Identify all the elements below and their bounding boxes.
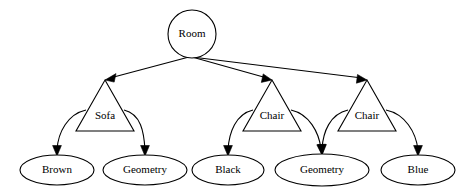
node-brown-label: Brown (42, 163, 72, 175)
edge-root-to-chair1-arrowhead (261, 74, 272, 83)
node-room[interactable]: Room (168, 10, 216, 58)
diagram-canvas: Room Sofa Chair Chair Brown Geometry (0, 0, 471, 189)
node-geometry-1[interactable]: Geometry (103, 155, 187, 185)
edge-sofa-to-brown-arrowhead (53, 146, 62, 157)
edge-root-to-sofa-arrowhead (105, 74, 116, 83)
node-chair-1[interactable]: Chair (243, 80, 301, 131)
edge-chair2-to-geometry2-arrowhead (318, 145, 327, 156)
node-sofa-triangle[interactable] (76, 80, 134, 131)
edge-sofa-to-brown (53, 110, 86, 156)
node-blue-label: Blue (408, 163, 429, 175)
node-black-label: Black (215, 163, 241, 175)
edge-root-to-sofa-line (110, 57, 189, 78)
edge-root-to-chair1 (192, 57, 272, 82)
node-chair-2[interactable]: Chair (338, 80, 396, 131)
node-sofa-label: Sofa (95, 109, 115, 121)
edge-root-to-chair2-line (192, 57, 362, 78)
node-room-label: Room (179, 27, 206, 39)
node-chair-1-label: Chair (260, 109, 285, 121)
edge-chair2-to-blue-arrowhead (414, 146, 423, 157)
node-sofa[interactable]: Sofa (76, 80, 134, 131)
edge-chair1-to-black (224, 110, 253, 156)
edge-root-to-chair1-line (192, 57, 267, 78)
edge-root-to-chair2 (192, 57, 367, 83)
node-blue[interactable]: Blue (381, 155, 455, 185)
node-chair-2-triangle[interactable] (338, 80, 396, 131)
edge-sofa-to-geometry1 (124, 110, 149, 156)
node-geometry-2-label: Geometry (300, 163, 344, 175)
edge-group-root (105, 57, 367, 83)
edge-chair2-to-geometry2 (318, 110, 348, 155)
edge-sofa-to-geometry1-arrowhead (141, 146, 150, 157)
node-brown[interactable]: Brown (20, 155, 94, 185)
scene-graph-diagram: Room Sofa Chair Chair Brown Geometry (0, 0, 471, 189)
node-chair-2-label: Chair (355, 109, 380, 121)
node-geometry-2[interactable]: Geometry (275, 154, 369, 186)
node-black[interactable]: Black (192, 155, 264, 185)
edge-chair2-to-blue (386, 110, 422, 156)
node-chair-1-triangle[interactable] (243, 80, 301, 131)
edge-root-to-sofa (105, 57, 189, 82)
edge-chair1-to-black-arrowhead (224, 146, 233, 157)
node-geometry-1-label: Geometry (123, 163, 167, 175)
